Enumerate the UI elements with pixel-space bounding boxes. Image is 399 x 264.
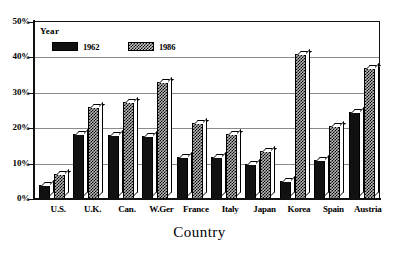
bar-side-face	[237, 129, 241, 196]
bar-side-face	[375, 63, 379, 196]
legend: Year 19621986	[40, 26, 185, 56]
x-axis-labels: U.S.U.K.Can.W.GerFranceItalyJapanKoreaSp…	[35, 204, 379, 220]
bar-group	[349, 22, 383, 199]
bar-side-face	[340, 121, 344, 196]
y-axis-tick-label: 0%	[2, 194, 30, 203]
bar-side-face	[134, 97, 138, 196]
legend-label-1962: 1962	[83, 42, 99, 52]
bar-top-face	[90, 104, 105, 108]
bar-chart: 0%10%20%30%40%50% U.S.U.K.Can.W.GerFranc…	[0, 0, 399, 264]
x-axis-title: Country	[0, 224, 399, 241]
bar-1986-us	[54, 174, 65, 199]
legend-swatch-1962	[52, 42, 78, 51]
bar-group	[314, 22, 348, 199]
y-axis-tick-label: 20%	[2, 123, 30, 132]
legend-swatch-1986	[128, 42, 154, 51]
bar-top-face	[262, 148, 277, 152]
bar-1986-korea	[295, 54, 306, 199]
bar-1986-uk	[88, 107, 99, 199]
bar-1962-austria	[349, 112, 360, 199]
legend-label-1986: 1986	[159, 42, 175, 52]
bar-1986-austria	[364, 68, 375, 199]
y-axis-tick-label: 40%	[2, 52, 30, 61]
bar-1962-us	[39, 185, 50, 199]
bar-1986-wger	[157, 82, 168, 199]
x-axis-tick-label: Austria	[346, 204, 390, 214]
bar-group	[211, 22, 245, 199]
bar-1986-japan	[260, 151, 271, 199]
bar-1962-spain	[314, 160, 325, 199]
bar-1962-japan	[245, 164, 256, 199]
y-axis-tick-label: 50%	[2, 17, 30, 26]
bar-side-face	[306, 49, 310, 196]
bar-1986-spain	[329, 126, 340, 199]
bar-side-face	[203, 118, 207, 196]
y-axis-tick-label: 10%	[2, 159, 30, 168]
bar-group	[245, 22, 279, 199]
bar-side-face	[99, 102, 103, 196]
bar-side-face	[271, 146, 275, 196]
y-axis-tick-label: 30%	[2, 88, 30, 97]
bar-1962-korea	[280, 181, 291, 199]
bar-1962-uk	[73, 134, 84, 199]
bar-1986-can	[123, 102, 134, 199]
bar-side-face	[168, 77, 172, 196]
x-axis-line	[33, 198, 381, 200]
bar-1986-italy	[226, 134, 237, 199]
bar-group	[280, 22, 314, 199]
bar-1962-italy	[211, 157, 222, 199]
bar-1962-france	[177, 157, 188, 199]
legend-title: Year	[40, 26, 59, 36]
bar-side-face	[65, 169, 69, 196]
bar-1962-wger	[142, 136, 153, 199]
bar-1986-france	[192, 123, 203, 199]
bar-1962-can	[108, 135, 119, 199]
